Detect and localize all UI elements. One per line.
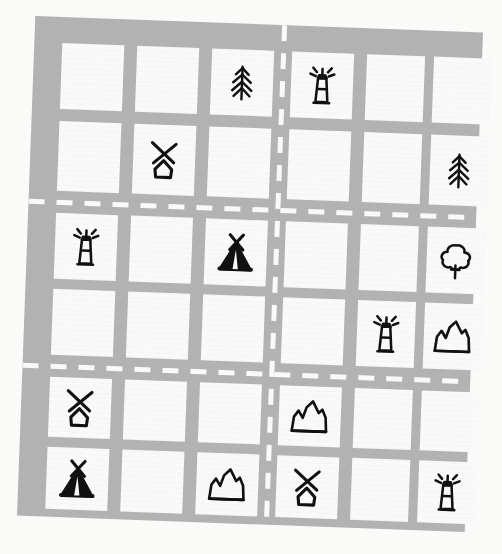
windmill-icon (284, 464, 330, 510)
map-cell-r2c6[interactable] (429, 135, 490, 207)
teepee-icon (213, 230, 259, 276)
map-cell-r5c1[interactable] (48, 377, 112, 439)
map-cell-r4c3[interactable] (201, 294, 265, 362)
map-cell-r6c6[interactable] (417, 460, 477, 524)
map-cell-r3c1[interactable] (54, 213, 118, 281)
map-cell-r3c6[interactable] (425, 226, 485, 294)
map-cell-r4c4[interactable] (281, 297, 345, 365)
mountain-icon (204, 462, 250, 508)
map-board (17, 16, 483, 532)
map-stage (0, 0, 502, 554)
map-cell-r3c4[interactable] (284, 221, 348, 289)
map-cell-r5c4[interactable] (278, 385, 342, 447)
map-cell-r6c4[interactable] (275, 455, 339, 519)
map-cell-r6c1[interactable] (45, 447, 109, 511)
map-cell-r6c2[interactable] (120, 449, 184, 513)
map-cell-r2c2[interactable] (132, 124, 197, 196)
mountain-icon (430, 314, 476, 360)
map-cell-r6c3[interactable] (195, 452, 259, 516)
map-cell-r2c4[interactable] (287, 129, 352, 201)
mountain-icon (287, 393, 333, 439)
map-cell-r5c2[interactable] (123, 379, 187, 441)
map-cell-r6c5[interactable] (350, 458, 410, 522)
map-cell-r2c1[interactable] (57, 121, 122, 193)
map-cell-r1c5[interactable] (365, 54, 425, 122)
map-cell-r4c1[interactable] (51, 289, 115, 357)
pine-tree-icon (438, 150, 479, 191)
windmill-icon (57, 385, 103, 431)
lighthouse-icon (298, 62, 346, 110)
map-cell-r2c5[interactable] (362, 132, 423, 204)
lighthouse-icon (362, 310, 410, 358)
map-cell-r2c3[interactable] (207, 126, 272, 198)
map-cell-r3c3[interactable] (204, 218, 268, 286)
map-cell-r1c4[interactable] (290, 51, 354, 119)
map-cell-r1c2[interactable] (135, 46, 199, 114)
pine-tree-icon (221, 62, 262, 103)
map-cell-r4c6[interactable] (423, 302, 483, 370)
map-cell-r5c5[interactable] (353, 388, 413, 450)
lighthouse-icon (423, 469, 471, 517)
map-cell-r1c6[interactable] (432, 57, 492, 125)
round-tree-icon (434, 239, 478, 283)
lighthouse-icon (62, 223, 110, 271)
map-cell-r4c2[interactable] (126, 292, 190, 360)
map-cell-r1c1[interactable] (60, 43, 124, 111)
map-cell-r3c2[interactable] (129, 216, 193, 284)
map-cell-r3c5[interactable] (358, 224, 418, 292)
map-cell-r5c3[interactable] (198, 382, 262, 444)
map-cell-r4c5[interactable] (356, 300, 416, 368)
teepee-icon (55, 456, 101, 502)
map-cell-r5c6[interactable] (420, 390, 480, 452)
windmill-icon (141, 137, 187, 183)
city-block-layer (17, 16, 483, 532)
map-cell-r1c3[interactable] (210, 48, 274, 116)
